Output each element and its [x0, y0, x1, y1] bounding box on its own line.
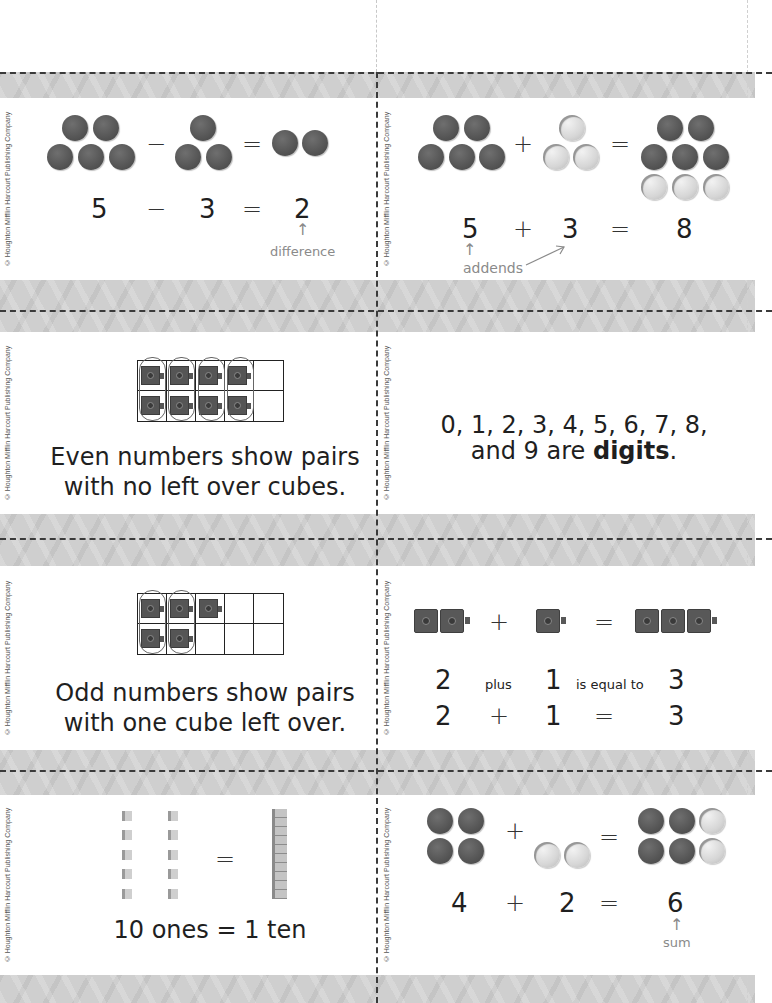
equation-eq: =: [599, 891, 619, 915]
cut-line-vertical: [376, 72, 378, 1003]
addends-label: addends: [463, 260, 523, 276]
equals-sign: =: [594, 610, 614, 634]
equation-op: −: [146, 197, 166, 221]
even-text-line-1: Even numbers show pairs: [30, 442, 380, 472]
words-is-equal-to: is equal to: [576, 677, 644, 692]
plus-sign: +: [489, 610, 509, 634]
up-arrow-icon: ↑: [463, 242, 476, 258]
copyright-text: © Houghton Mifflin Harcourt Publishing C…: [383, 581, 397, 735]
copyright-text: © Houghton Mifflin Harcourt Publishing C…: [4, 581, 18, 735]
equation-result: 6: [667, 890, 684, 916]
equation-result: 2: [294, 196, 311, 222]
equals-sign: =: [599, 825, 619, 849]
diagonal-arrow-icon: [524, 243, 569, 268]
equals-sign: =: [215, 847, 235, 871]
sum-label: sum: [663, 935, 691, 950]
card-odd-numbers: © Houghton Mifflin Harcourt Publishing C…: [0, 566, 375, 750]
symbols-a: 2: [435, 703, 452, 729]
copyright-text: © Houghton Mifflin Harcourt Publishing C…: [383, 112, 397, 266]
ten-rod: [272, 809, 287, 899]
digits-line-2: and 9 are digits.: [399, 436, 749, 466]
words-result: 3: [668, 667, 685, 693]
equation-a: 5: [91, 196, 108, 222]
equation-op: +: [513, 217, 533, 241]
equation-op: +: [505, 891, 525, 915]
symbols-equals: =: [594, 704, 614, 728]
equals-sign: =: [242, 132, 262, 156]
trim-line-top: [376, 0, 377, 72]
digits-line-2-text: and 9 are: [471, 437, 593, 465]
equation-a: 5: [462, 216, 479, 242]
words-a: 2: [435, 667, 452, 693]
symbols-result: 3: [668, 703, 685, 729]
equation-b: 2: [559, 890, 576, 916]
card-sum: © Houghton Mifflin Harcourt Publishing C…: [379, 795, 755, 975]
difference-label: difference: [270, 244, 335, 259]
card-plus-equal: © Houghton Mifflin Harcourt Publishing C…: [379, 566, 755, 750]
words-b: 1: [545, 667, 562, 693]
card-difference: © Houghton Mifflin Harcourt Publishing C…: [0, 98, 375, 280]
card-digits: © Houghton Mifflin Harcourt Publishing C…: [379, 332, 755, 514]
cut-line-3: [0, 538, 772, 540]
odd-text-line-2: with one cube left over.: [30, 708, 380, 738]
copyright-text: © Houghton Mifflin Harcourt Publishing C…: [4, 112, 18, 266]
cut-line-1: [0, 72, 772, 74]
cut-line-2: [0, 310, 772, 312]
even-text-line-2: with no left over cubes.: [30, 472, 380, 502]
copyright-text: © Houghton Mifflin Harcourt Publishing C…: [4, 346, 18, 500]
card-even-numbers: © Houghton Mifflin Harcourt Publishing C…: [0, 332, 375, 514]
digits-period: .: [670, 437, 678, 465]
up-arrow-icon: ↑: [670, 917, 683, 933]
plus-sign: +: [513, 132, 533, 156]
up-arrow-icon: ↑: [296, 222, 309, 238]
symbols-plus: +: [489, 704, 509, 728]
equation-eq: =: [242, 197, 262, 221]
equation-a: 4: [451, 890, 468, 916]
cut-line-4: [0, 770, 772, 772]
copyright-text: © Houghton Mifflin Harcourt Publishing C…: [383, 346, 397, 500]
card-addends: © Houghton Mifflin Harcourt Publishing C…: [379, 98, 755, 280]
digits-bold-term: digits: [593, 437, 670, 465]
copyright-text: © Houghton Mifflin Harcourt Publishing C…: [4, 808, 18, 962]
ones-ten-text: 10 ones = 1 ten: [70, 915, 350, 945]
words-plus: plus: [485, 677, 512, 692]
equation-b: 3: [562, 216, 579, 242]
copyright-text: © Houghton Mifflin Harcourt Publishing C…: [383, 808, 397, 962]
equation-eq: =: [610, 217, 630, 241]
equation-result: 8: [676, 216, 693, 242]
odd-text-line-1: Odd numbers show pairs: [30, 678, 380, 708]
plus-sign: +: [505, 819, 525, 843]
card-ones-ten: © Houghton Mifflin Harcourt Publishing C…: [0, 795, 375, 975]
equation-b: 3: [199, 196, 216, 222]
symbols-b: 1: [545, 703, 562, 729]
minus-sign: −: [146, 132, 166, 156]
equals-sign: =: [610, 132, 630, 156]
